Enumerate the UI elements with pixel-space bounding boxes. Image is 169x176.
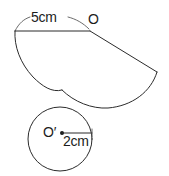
circle-radius-label: 2cm (63, 134, 89, 148)
circle-center-label: O′ (43, 125, 56, 139)
geometry-canvas (0, 0, 169, 176)
sector-arc-lower (62, 72, 157, 108)
measure-arc-right-segment (68, 17, 89, 29)
sector-radius-edge-right (90, 31, 157, 72)
sector-arc-left (15, 31, 62, 91)
measure-arc-left-segment (15, 17, 30, 31)
cone-net-figure: 5cm O O′ 2cm (0, 0, 169, 176)
slant-measure-label: 5cm (31, 10, 57, 24)
apex-point-label: O (88, 12, 99, 26)
